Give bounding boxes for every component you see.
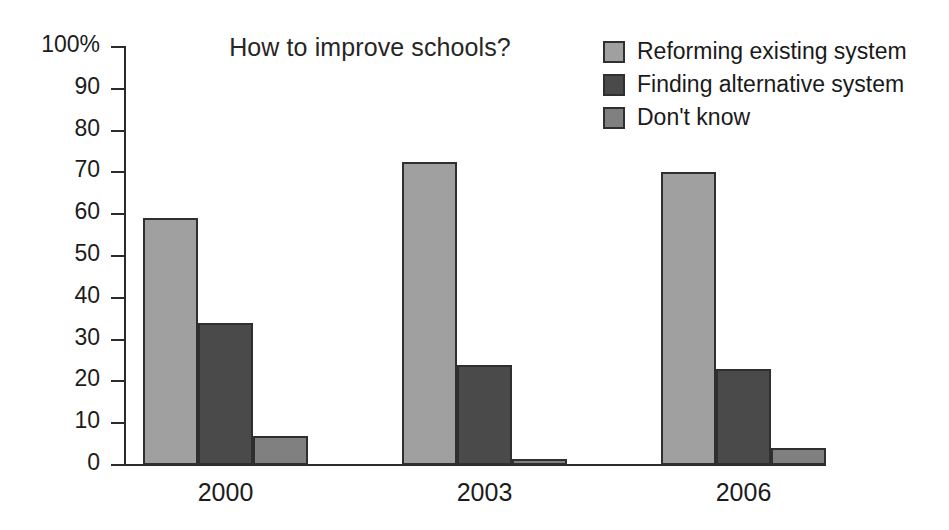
y-axis-tick [111,130,125,132]
bar-chart: How to improve schools? 0102030405060708… [0,0,949,530]
y-axis-tick-label: 40 [32,282,100,309]
x-axis-tick-label: 2003 [405,478,565,507]
y-axis-tick-label: 10 [32,407,100,434]
bar [716,369,771,465]
legend-item-label: Reforming existing system [637,40,907,63]
y-axis-tick-labels: 0102030405060708090100% [32,0,100,530]
y-axis-tick-label: 80 [32,115,100,142]
y-axis-tick-label: 50 [32,240,100,267]
y-axis-tick-label: 0 [32,449,100,476]
x-axis-tick-label: 2006 [664,478,824,507]
bar [143,218,198,465]
legend-item: Don't know [603,102,907,133]
y-axis-tick-label: 90 [32,73,100,100]
y-axis-tick [111,380,125,382]
legend-swatch-icon [603,41,625,63]
y-axis-tick [111,213,125,215]
y-axis-tick-label: 20 [32,365,100,392]
bar [512,459,567,465]
y-axis-tick [111,255,125,257]
bar [253,436,308,465]
y-axis-tick-label: 30 [32,324,100,351]
bar [771,448,826,465]
legend-item: Finding alternative system [603,69,907,100]
legend-swatch-icon [603,107,625,129]
bar [402,162,457,465]
bar [457,365,512,465]
y-axis-tick [111,422,125,424]
y-axis-tick [111,297,125,299]
y-axis-tick [111,339,125,341]
y-axis-tick-label: 60 [32,198,100,225]
y-axis-tick [111,464,125,466]
y-axis-tick-label: 70 [32,156,100,183]
legend-item-label: Finding alternative system [637,73,904,96]
legend-swatch-icon [603,74,625,96]
chart-legend: Reforming existing systemFinding alterna… [603,36,907,135]
y-axis-tick [111,46,125,48]
y-axis-tick [111,171,125,173]
legend-item-label: Don't know [637,106,750,129]
y-axis-tick [111,88,125,90]
x-axis-tick-label: 2000 [146,478,306,507]
legend-item: Reforming existing system [603,36,907,67]
bar [198,323,253,465]
bar [661,172,716,465]
chart-title: How to improve schools? [205,33,535,62]
y-axis-tick-label: 100% [32,31,100,58]
